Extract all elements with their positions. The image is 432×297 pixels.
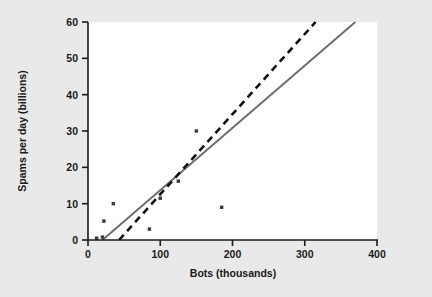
scatter-point	[195, 129, 198, 132]
x-tick-label: 0	[85, 248, 91, 260]
scatter-point	[101, 235, 104, 238]
scatter-point	[159, 197, 162, 200]
y-tick-label: 50	[66, 52, 78, 64]
y-tick-label: 0	[72, 234, 78, 246]
scatter-point	[220, 206, 223, 209]
y-tick-label: 30	[66, 125, 78, 137]
y-tick-label: 10	[66, 198, 78, 210]
x-tick-label: 200	[224, 248, 242, 260]
scatter-point	[112, 202, 115, 205]
y-tick-label: 20	[66, 161, 78, 173]
scatter-chart-figure: 0100200300400 0102030405060 Bots (thousa…	[0, 0, 432, 297]
y-tick-label: 40	[66, 89, 78, 101]
scatter-point	[148, 227, 151, 230]
x-tick-label: 100	[151, 248, 169, 260]
x-axis-title: Bots (thousands)	[190, 267, 276, 279]
x-tick-label: 400	[368, 248, 386, 260]
x-tick-label: 300	[296, 248, 314, 260]
y-tick-label: 60	[66, 16, 78, 28]
plot-area-background	[88, 22, 377, 240]
scatter-point	[102, 219, 105, 222]
chart-canvas: 0100200300400 0102030405060 Bots (thousa…	[0, 0, 432, 297]
scatter-point	[177, 179, 180, 182]
y-axis-title: Spams per day (billions)	[16, 70, 28, 191]
